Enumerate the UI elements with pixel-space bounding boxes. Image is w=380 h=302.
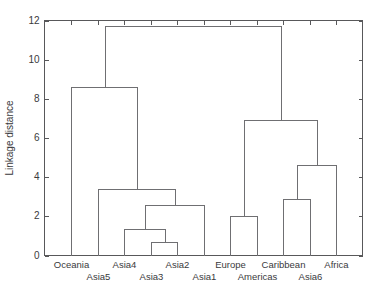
leaf-label-americas: Americas xyxy=(238,271,278,282)
link-m9 xyxy=(245,121,318,217)
y-tick-label-10: 10 xyxy=(28,54,40,65)
y-tick-label-4: 4 xyxy=(34,171,40,182)
dendrogram-chart: 024681012 OceaniaAsia5Asia4Asia3Asia2Asi… xyxy=(0,0,380,302)
leaf-labels: OceaniaAsia5Asia4Asia3Asia2Asia1EuropeAm… xyxy=(54,259,350,282)
leaf-label-asia2: Asia2 xyxy=(166,259,190,270)
y-axis-title-text: Linkage distance xyxy=(4,100,15,175)
dendrogram-plot: 024681012 OceaniaAsia5Asia4Asia3Asia2Asi… xyxy=(0,0,380,302)
leaf-label-caribbean: Caribbean xyxy=(262,259,306,270)
leaf-label-asia3: Asia3 xyxy=(140,271,164,282)
leaf-label-asia4: Asia4 xyxy=(113,259,137,270)
plot-frame xyxy=(45,21,363,256)
y-axis-ticks xyxy=(45,22,363,257)
leaf-label-africa: Africa xyxy=(324,259,349,270)
y-axis-tick-labels: 024681012 xyxy=(28,15,40,261)
leaf-label-asia1: Asia1 xyxy=(193,271,217,282)
link-m10 xyxy=(106,27,282,121)
y-axis-title: Linkage distance xyxy=(4,100,15,175)
y-tick-label-12: 12 xyxy=(28,15,40,26)
y-tick-label-2: 2 xyxy=(34,210,40,221)
leaf-label-europe: Europe xyxy=(215,259,246,270)
link-m8 xyxy=(298,166,337,256)
leaf-label-oceania: Oceania xyxy=(54,259,90,270)
y-tick-label-8: 8 xyxy=(34,93,40,104)
link-m3 xyxy=(146,206,205,256)
link-m1 xyxy=(152,243,178,256)
link-m7 xyxy=(284,200,311,256)
plot-border xyxy=(45,21,363,256)
y-tick-label-6: 6 xyxy=(34,132,40,143)
link-m5 xyxy=(72,88,138,256)
link-m6 xyxy=(231,217,258,256)
leaf-label-asia6: Asia6 xyxy=(299,271,323,282)
top-axis-ticks xyxy=(72,21,337,25)
link-m4 xyxy=(99,190,176,256)
dendrogram-links xyxy=(72,27,337,256)
leaf-label-asia5: Asia5 xyxy=(87,271,111,282)
y-tick-label-0: 0 xyxy=(34,250,40,261)
